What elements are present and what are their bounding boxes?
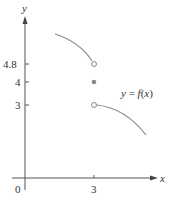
curve-left-branch bbox=[55, 34, 92, 61]
function-label: y = f(x) bbox=[120, 87, 153, 100]
y-axis-arrow-icon bbox=[23, 16, 28, 24]
y-tick-label-4-8: 4.8 bbox=[3, 58, 17, 70]
y-tick-label-4: 4 bbox=[15, 76, 21, 88]
curve-right-branch bbox=[97, 105, 146, 135]
x-axis-label: x bbox=[159, 172, 165, 184]
filled-point bbox=[92, 80, 97, 85]
y-tick-label-3: 3 bbox=[15, 99, 21, 111]
origin-label: 0 bbox=[15, 183, 21, 195]
open-point-upper bbox=[92, 62, 97, 67]
open-point-lower bbox=[92, 103, 97, 108]
y-axis-label: y bbox=[21, 2, 27, 14]
function-graph: y x 0 3 4.8 4 3 y = f(x) bbox=[0, 0, 173, 203]
x-tick-label-3: 3 bbox=[91, 183, 97, 195]
x-axis-arrow-icon bbox=[150, 176, 158, 181]
